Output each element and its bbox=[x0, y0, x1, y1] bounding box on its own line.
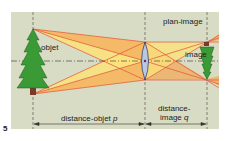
image-plane-label: plan-image bbox=[163, 17, 203, 26]
image-distance-label: distance- image q bbox=[158, 104, 190, 122]
image-distance-line2: image bbox=[160, 113, 182, 122]
image-distance-variable: q bbox=[184, 113, 188, 122]
lens-center bbox=[144, 60, 146, 62]
image-distance-line1: distance- bbox=[158, 104, 190, 113]
object-distance-label: distance-objet p bbox=[61, 114, 118, 123]
object-distance-text: distance-objet bbox=[61, 114, 111, 123]
object-distance-variable: p bbox=[113, 114, 117, 123]
image-label: image bbox=[185, 50, 207, 59]
object-label: objet bbox=[41, 43, 58, 52]
figure-number: 5 bbox=[3, 124, 7, 133]
